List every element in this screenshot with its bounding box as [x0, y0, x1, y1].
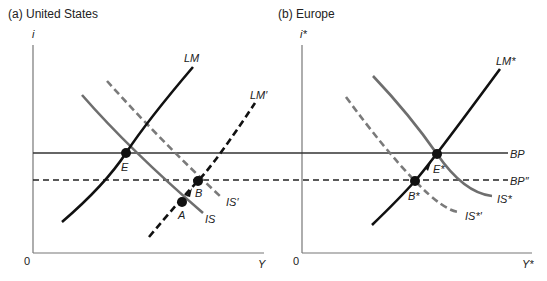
- panel-b-is-curve: [373, 76, 492, 196]
- label-b-star: B*: [408, 190, 420, 202]
- panel-a-lm-prime-curve: [149, 103, 255, 237]
- panel-b-title: (b) Europe: [278, 7, 335, 21]
- panel-b-y-label: i*: [300, 28, 307, 40]
- label-lm-star: LM*: [496, 55, 516, 67]
- label-lm-prime: LM′: [250, 89, 268, 101]
- point-a: [177, 197, 187, 207]
- point-e-star: [432, 149, 442, 159]
- panel-a-title: (a) United States: [8, 7, 98, 21]
- label-is-star: IS*: [497, 193, 512, 205]
- label-b: B: [195, 187, 202, 199]
- label-is: IS: [205, 213, 216, 225]
- panel-b-origin: 0: [293, 255, 299, 267]
- panel-a-x-label: Y: [258, 258, 266, 270]
- panel-b-x-label: Y*: [522, 258, 534, 270]
- label-is-star-prime: IS*′: [465, 210, 483, 222]
- label-e-star: E*: [433, 163, 445, 175]
- is-lm-bp-diagram: (a) United States (b) Europe i Y 0 i* Y*…: [0, 0, 547, 281]
- label-bp: BP: [510, 148, 525, 160]
- point-e: [121, 148, 131, 158]
- label-lm: LM: [184, 52, 200, 64]
- panel-a-is-curve: [82, 95, 203, 213]
- label-a: A: [177, 209, 185, 221]
- panel-a-origin: 0: [24, 255, 30, 267]
- point-b-star: [410, 176, 420, 186]
- label-is-prime: IS′: [226, 196, 239, 208]
- label-e: E: [121, 161, 129, 173]
- panel-a-y-label: i: [32, 28, 35, 40]
- point-b: [193, 176, 203, 186]
- label-bp-double-prime: BP″: [510, 175, 530, 187]
